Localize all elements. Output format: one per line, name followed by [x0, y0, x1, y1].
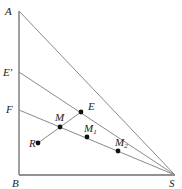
line-FS: [19, 110, 175, 175]
label-F: F: [5, 103, 13, 115]
point-M2: [116, 149, 121, 154]
point-M1: [85, 135, 90, 140]
line-AS: [19, 11, 175, 175]
label-E: E: [87, 100, 95, 112]
label-E-prime: E': [2, 66, 13, 78]
label-S: S: [169, 177, 175, 189]
label-B: B: [12, 177, 19, 189]
ternary-diagram: A E' F B S E M R M1 M2: [0, 0, 182, 189]
label-M1: M1: [83, 122, 97, 136]
line-EprimeS: [19, 72, 175, 175]
label-M2: M2: [114, 136, 128, 150]
label-A: A: [4, 5, 12, 17]
point-E: [79, 110, 84, 115]
label-M: M: [54, 111, 65, 123]
point-M: [58, 125, 63, 130]
point-R: [36, 141, 41, 146]
label-R: R: [28, 137, 36, 149]
